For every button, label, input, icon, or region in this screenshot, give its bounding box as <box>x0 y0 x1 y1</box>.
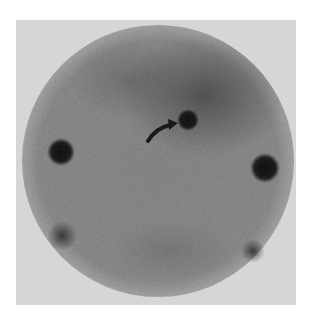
marker-lower-right <box>241 239 265 263</box>
focal-uptake-spot <box>177 109 199 131</box>
marker-right <box>250 153 280 183</box>
marker-left <box>47 138 75 166</box>
marker-lower-left <box>47 221 77 251</box>
scintigram <box>0 0 312 319</box>
